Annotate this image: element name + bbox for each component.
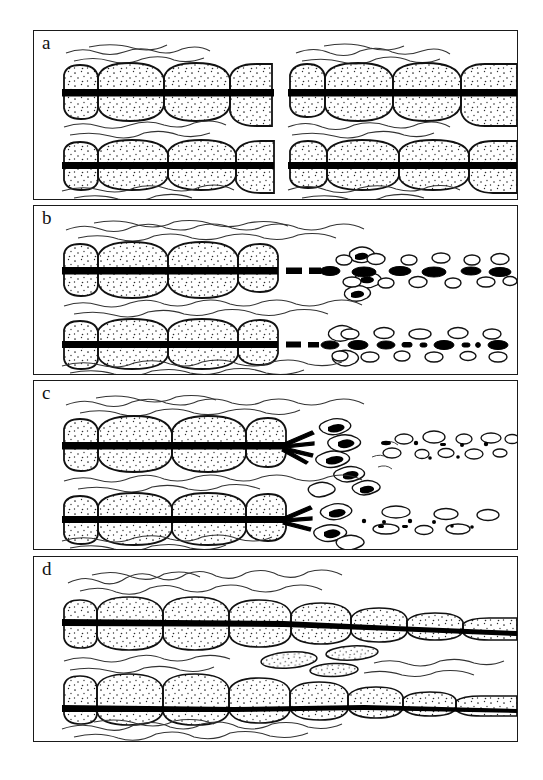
- panel-c-graphic: [34, 381, 517, 549]
- panel-b: b: [33, 205, 518, 375]
- panel-a-label: a: [42, 33, 50, 52]
- panel-c-label: c: [42, 383, 50, 402]
- panel-d-graphic: [34, 557, 517, 741]
- panel-a: a: [33, 30, 518, 200]
- panel-d: d: [33, 556, 518, 742]
- panel-a-graphic: [34, 31, 517, 199]
- figure-root: a: [0, 0, 543, 780]
- panel-d-label: d: [42, 559, 52, 578]
- panel-b-label: b: [42, 208, 52, 227]
- panel-b-graphic: [34, 206, 517, 374]
- panel-c: c: [33, 380, 518, 550]
